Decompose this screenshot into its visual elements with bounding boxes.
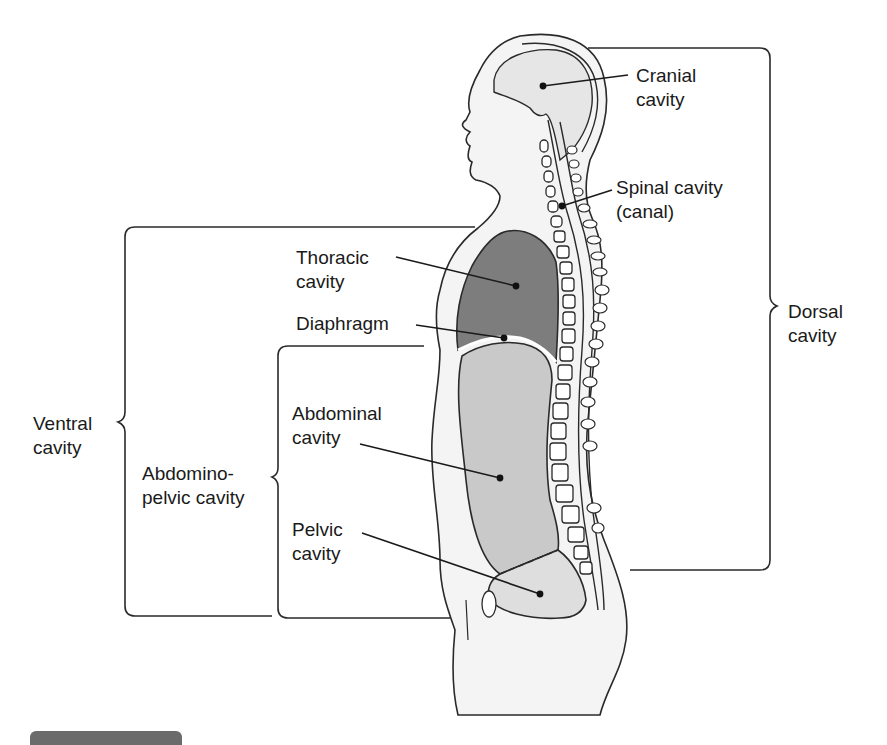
label-abdominopelvic-line1: Abdomino- [142, 462, 244, 486]
label-dorsal-line1: Dorsal [788, 300, 843, 324]
label-diaphragm-line1: Diaphragm [296, 312, 389, 336]
label-diaphragm: Diaphragm [296, 312, 389, 336]
label-thoracic-line1: Thoracic [296, 246, 369, 270]
label-pelvic-cavity: Pelvic cavity [292, 518, 343, 566]
label-dorsal-line2: cavity [788, 324, 843, 348]
label-spinal-line2: (canal) [616, 200, 723, 224]
abdominopelvic-bracket [272, 346, 450, 618]
label-cranial-line2: cavity [636, 88, 696, 112]
label-ventral-line2: cavity [33, 436, 92, 460]
label-ventral-line1: Ventral [33, 412, 92, 436]
label-dorsal-cavity: Dorsal cavity [788, 300, 843, 348]
label-ventral-cavity: Ventral cavity [33, 412, 92, 460]
label-abdominal-line2: cavity [292, 426, 382, 450]
label-cranial-line1: Cranial [636, 64, 696, 88]
label-spinal-line1: Spinal cavity [616, 176, 723, 200]
figure-caption-tab [30, 731, 182, 745]
label-abdominopelvic-line2: pelvic cavity [142, 486, 244, 510]
label-pelvic-line2: cavity [292, 542, 343, 566]
dorsal-bracket [588, 48, 777, 570]
label-thoracic-cavity: Thoracic cavity [296, 246, 369, 294]
label-spinal-cavity: Spinal cavity (canal) [616, 176, 723, 224]
label-cranial-cavity: Cranial cavity [636, 64, 696, 112]
label-abdominopelvic-cavity: Abdomino- pelvic cavity [142, 462, 244, 510]
label-abdominal-cavity: Abdominal cavity [292, 402, 382, 450]
label-pelvic-line1: Pelvic [292, 518, 343, 542]
label-abdominal-line1: Abdominal [292, 402, 382, 426]
label-thoracic-line2: cavity [296, 270, 369, 294]
